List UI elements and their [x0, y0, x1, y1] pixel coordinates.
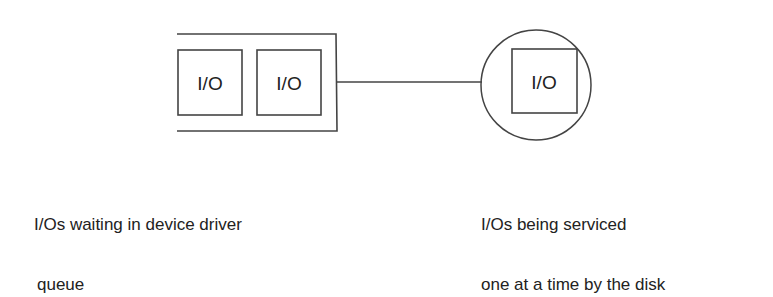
disk-caption-line2: one at a time by the disk [481, 275, 665, 295]
queue-caption: I/Os waiting in device driver queue [34, 175, 242, 297]
queue-item-2: I/O [257, 50, 321, 115]
queue-item-1-label: I/O [197, 73, 222, 94]
disk-item: I/O [512, 49, 577, 113]
disk-caption-line1: I/Os being serviced [481, 215, 665, 235]
disk-caption: I/Os being serviced one at a time by the… [481, 175, 665, 297]
queue-item-2-label: I/O [276, 73, 301, 94]
disk-item-label: I/O [531, 72, 556, 93]
queue-item-1: I/O [178, 50, 242, 115]
queue-caption-line2: queue [34, 275, 242, 295]
queue-caption-line1: I/Os waiting in device driver [34, 215, 242, 235]
